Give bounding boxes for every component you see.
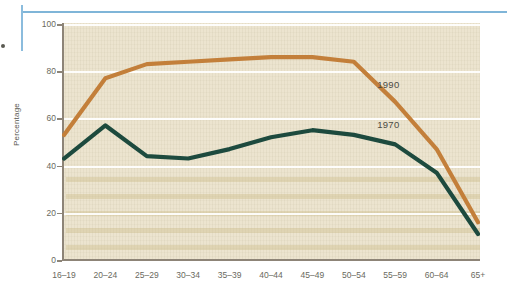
- y-axis-tick-label: 0: [33, 256, 56, 265]
- y-axis-title: Percentage: [12, 90, 21, 160]
- x-axis-tick-label: 35–39: [207, 270, 253, 280]
- page-vertical-rule: [21, 5, 23, 51]
- y-axis-tick-label: 80: [33, 67, 56, 76]
- y-axis-tick-label: 20: [33, 209, 56, 218]
- x-axis-tick-label: 20–24: [82, 270, 128, 280]
- series-line-1970: [64, 125, 478, 234]
- y-axis-tick-mark: [57, 213, 62, 215]
- y-axis-tick-mark: [57, 24, 62, 26]
- x-axis-tick-label: 16–19: [41, 270, 87, 280]
- x-axis-tick-label: 40–44: [248, 270, 294, 280]
- x-axis-tick-label: 60–64: [414, 270, 460, 280]
- y-axis-tick-mark: [57, 118, 62, 120]
- x-axis-tick-label: 25–29: [124, 270, 170, 280]
- y-axis-tick-label: 40: [33, 162, 56, 171]
- x-axis-tick-label: 55–59: [372, 270, 418, 280]
- page-horizontal-rule: [21, 11, 507, 13]
- y-axis-tick-mark: [57, 260, 62, 262]
- series-label-1990: 1990: [377, 79, 399, 90]
- page-corner-mark: [1, 44, 5, 48]
- x-axis-tick-label: 45–49: [289, 270, 335, 280]
- x-axis-tick-label: 30–34: [165, 270, 211, 280]
- chart-page: Percentage 020406080100 19901970 16–1920…: [0, 0, 507, 296]
- y-axis-tick-mark: [57, 71, 62, 73]
- series-label-1970: 1970: [377, 119, 399, 130]
- y-axis-tick-label: 60: [33, 114, 56, 123]
- y-axis-tick-label: 100: [33, 20, 56, 29]
- plot-area: 19901970: [62, 23, 480, 261]
- y-axis-tick-mark: [57, 166, 62, 168]
- series-lines: [62, 23, 480, 261]
- x-axis-tick-label: 50–54: [331, 270, 377, 280]
- x-axis-tick-label: 65+: [455, 270, 501, 280]
